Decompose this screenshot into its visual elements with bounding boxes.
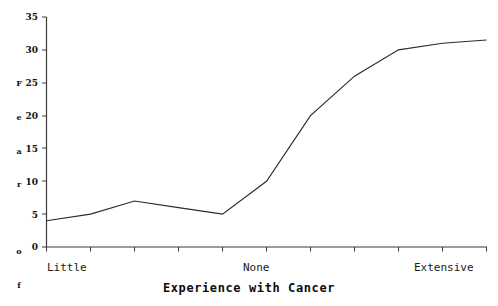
x-tick-label-none: None <box>243 261 270 274</box>
x-tick-label-little: Little <box>47 261 87 274</box>
x-tick-marks <box>47 247 487 252</box>
x-axis-title: Experience with Cancer <box>0 281 498 295</box>
line-chart: F e a r o f c a n c e r 35 30 25 20 15 1… <box>0 0 498 306</box>
x-tick-label-extensive: Extensive <box>414 261 474 274</box>
data-series-line <box>47 40 487 221</box>
y-tick-marks <box>42 17 47 247</box>
